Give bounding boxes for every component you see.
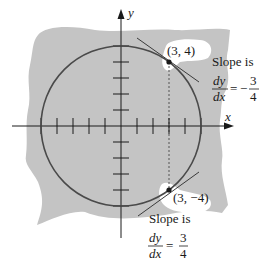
slope-equals-bottom: = — [166, 238, 173, 253]
point-3-4 — [166, 59, 171, 64]
circle-tangent-diagram: x y (3, 4) (3, −4) Slope is dy dx = − 3 … — [0, 0, 259, 266]
slope-annotation-bottom: Slope is dy dx = 3 4 — [148, 211, 191, 261]
slope-annotation-top: Slope is dy dx = − 3 4 — [212, 54, 259, 104]
slope-dx-bottom: dx — [149, 246, 162, 261]
slope-equals-top: = — [230, 81, 237, 96]
slope-dx-top: dx — [213, 89, 226, 104]
slope-num-bottom: 3 — [180, 230, 187, 245]
point-label-bottom: (3, −4) — [173, 190, 209, 205]
slope-caption-top: Slope is — [212, 54, 254, 69]
slope-dy-top: dy — [213, 73, 226, 88]
point-3-neg4 — [166, 187, 171, 192]
slope-sign-top: − — [240, 81, 247, 96]
x-axis-label: x — [224, 109, 231, 124]
slope-caption-bottom: Slope is — [149, 211, 191, 226]
y-axis-label: y — [126, 5, 134, 20]
slope-dy-bottom: dy — [149, 230, 162, 245]
point-label-top: (3, 4) — [167, 43, 195, 58]
slope-den-bottom: 4 — [180, 246, 187, 261]
y-axis-arrow-icon — [118, 9, 125, 19]
slope-num-top: 3 — [250, 73, 257, 88]
slope-den-top: 4 — [250, 89, 257, 104]
